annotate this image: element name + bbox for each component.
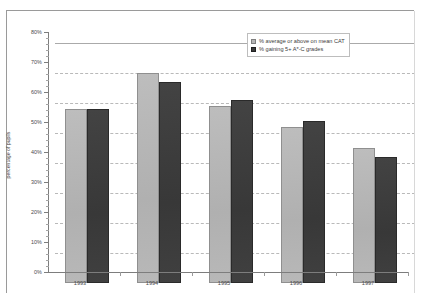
y-tick-minor [46, 74, 49, 75]
y-tick-label: 40% [16, 149, 42, 155]
y-tick-mark [44, 62, 49, 63]
y-tick-mark [44, 182, 49, 183]
y-tick-minor [46, 80, 49, 81]
legend-swatch-icon [251, 39, 256, 44]
bar-1997-series2 [375, 157, 397, 283]
bar-1995-series1 [209, 106, 231, 283]
bar-1993-series1 [65, 109, 87, 283]
chart-legend: % average or above on mean CAT% gaining … [247, 33, 350, 57]
bar-1996-series2 [303, 121, 325, 283]
y-tick-minor [46, 158, 49, 159]
y-tick-label: 60% [16, 89, 42, 95]
y-tick-minor [46, 116, 49, 117]
y-tick-minor [46, 266, 49, 267]
chart-frame [6, 10, 414, 293]
legend-item-label: % average or above on mean CAT [259, 37, 345, 45]
y-tick-minor [46, 254, 49, 255]
y-tick-minor [46, 134, 49, 135]
y-tick-minor [46, 260, 49, 261]
y-axis-tick-labels: 80%70%60%50%40%30%20%10%0% [14, 0, 42, 301]
y-tick-minor [46, 98, 49, 99]
y-tick-minor [46, 56, 49, 57]
y-tick-minor [46, 68, 49, 69]
y-tick-label: 10% [16, 239, 42, 245]
x-tick-mark [192, 272, 193, 276]
bar-1994-series1 [137, 73, 159, 283]
x-tick-mark [336, 272, 337, 276]
y-tick-minor [46, 188, 49, 189]
y-tick-minor [46, 218, 49, 219]
y-tick-mark [44, 92, 49, 93]
legend-swatch-icon [251, 47, 256, 52]
y-tick-minor [46, 206, 49, 207]
y-tick-minor [46, 170, 49, 171]
plot-area [55, 43, 415, 283]
y-tick-minor [46, 230, 49, 231]
legend-item-1: % average or above on mean CAT [251, 37, 345, 45]
gridline [55, 73, 415, 74]
y-tick-minor [46, 44, 49, 45]
x-tick-mark [408, 272, 409, 276]
y-tick-minor [46, 140, 49, 141]
y-tick-label: 20% [16, 209, 42, 215]
y-tick-minor [46, 38, 49, 39]
plot-top-border [55, 43, 415, 44]
y-tick-label: 70% [16, 59, 42, 65]
y-tick-mark [44, 122, 49, 123]
y-tick-mark [44, 212, 49, 213]
y-tick-minor [46, 176, 49, 177]
y-tick-minor [46, 86, 49, 87]
legend-item-label: % gaining 5+ A*-C grades [259, 45, 323, 53]
y-tick-minor [46, 128, 49, 129]
legend-item-2: % gaining 5+ A*-C grades [251, 45, 345, 53]
y-tick-minor [46, 104, 49, 105]
x-axis-tick-labels: 19931994199519961997 [48, 272, 408, 292]
bar-1997-series1 [353, 148, 375, 283]
bar-1995-series2 [231, 100, 253, 283]
y-tick-mark [44, 152, 49, 153]
bar-1994-series2 [159, 82, 181, 283]
x-tick-mark [264, 272, 265, 276]
y-tick-label: 50% [16, 119, 42, 125]
bar-1993-series2 [87, 109, 109, 283]
y-tick-minor [46, 194, 49, 195]
y-tick-minor [46, 200, 49, 201]
x-tick-mark [120, 272, 121, 276]
y-tick-minor [46, 50, 49, 51]
plot-right-border [414, 43, 415, 283]
x-tick-label-1997: 1997 [338, 280, 398, 286]
y-tick-mark [44, 32, 49, 33]
y-axis-title: percentage of pupils [5, 95, 11, 215]
y-tick-minor [46, 248, 49, 249]
y-tick-mark [44, 242, 49, 243]
y-tick-minor [46, 146, 49, 147]
y-tick-label: 30% [16, 179, 42, 185]
y-tick-label: 0% [16, 269, 42, 275]
x-tick-label-1995: 1995 [194, 280, 254, 286]
y-tick-minor [46, 236, 49, 237]
y-tick-minor [46, 164, 49, 165]
x-tick-label-1994: 1994 [122, 280, 182, 286]
y-tick-label: 80% [16, 29, 42, 35]
x-tick-label-1993: 1993 [50, 280, 110, 286]
x-tick-label-1996: 1996 [266, 280, 326, 286]
y-tick-minor [46, 110, 49, 111]
y-tick-minor [46, 224, 49, 225]
bar-1996-series1 [281, 127, 303, 283]
